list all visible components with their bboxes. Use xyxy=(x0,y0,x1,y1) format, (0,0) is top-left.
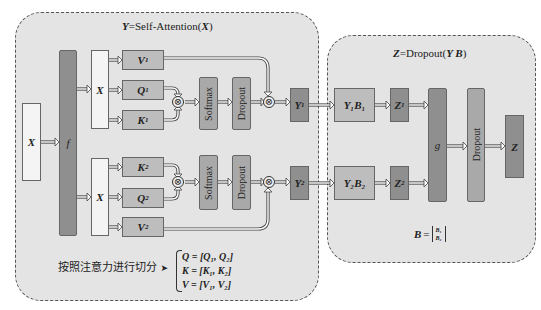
dropout1-label: Dropout xyxy=(236,87,247,120)
self-attention-title: Y=Self-Attention(X) xyxy=(122,20,213,32)
y2b2-label: Y₂B₂ xyxy=(344,177,366,189)
dropout1-box: Dropout xyxy=(232,77,251,130)
k2-sub: 2 xyxy=(145,163,149,171)
z-output-box: Z xyxy=(505,115,524,178)
z-output-label: Z xyxy=(511,141,518,153)
q1-box: Q1 xyxy=(122,80,164,100)
equation-k: K = [K₁, K₂] xyxy=(182,264,233,278)
y1-label: Y xyxy=(294,99,301,111)
matmul-v1-icon: ⊗ xyxy=(263,96,275,108)
y1b1-box: Y₁B₁ xyxy=(334,88,375,122)
softmax1-box: Softmax xyxy=(199,77,218,130)
dropout2-label: Dropout xyxy=(236,166,247,199)
matmul-qk2-icon: ⊗ xyxy=(172,176,184,188)
z2-sub: 2 xyxy=(401,179,405,187)
softmax1-label: Softmax xyxy=(203,87,214,121)
k1-box: K1 xyxy=(122,110,164,130)
f-function-bar: f xyxy=(59,50,77,236)
q2-box: Q2 xyxy=(122,188,164,208)
dropout-title: Z=Dropout(Y B) xyxy=(393,47,466,59)
title-arg-yb: Y B xyxy=(446,47,462,59)
title-var-y: Y xyxy=(122,20,129,32)
v2-label: V xyxy=(138,221,145,233)
equation-v: V = [V₁, V₂] xyxy=(182,278,233,292)
title-close: ) xyxy=(209,20,213,32)
title-eq: =Self-Attention( xyxy=(129,20,202,32)
dropout2-box: Dropout xyxy=(232,155,251,210)
final-dropout-label: Dropout xyxy=(471,128,482,161)
arrow-right-icon: ➤ xyxy=(161,263,169,273)
split-x-box-top: X xyxy=(91,50,109,129)
final-dropout-bar: Dropout xyxy=(467,88,485,202)
title-var-z: Z xyxy=(393,47,400,59)
y1-box: Y1 xyxy=(290,88,309,122)
title-eq-right: =Dropout( xyxy=(400,47,447,59)
y2b2-box: Y₂B₂ xyxy=(334,166,375,200)
z2-box: Z2 xyxy=(390,166,409,200)
softmax2-box: Softmax xyxy=(199,155,218,210)
v1-label: V xyxy=(138,54,145,66)
v1-box: V1 xyxy=(122,50,164,70)
input-x-box: X xyxy=(22,103,41,181)
v2-sub: 2 xyxy=(145,223,149,231)
k1-label: K xyxy=(138,114,145,126)
b-matrix-row-2: B₂ xyxy=(436,234,442,242)
z1-sub: 1 xyxy=(401,101,405,109)
title-close-right: ) xyxy=(463,47,467,59)
matmul-qk1-icon: ⊗ xyxy=(172,96,184,108)
y1b1-label: Y₁B₁ xyxy=(344,99,366,111)
b-matrix-bracket: B₁ B₂ xyxy=(432,226,446,242)
split-note: 按照注意力进行切分 ➤ xyxy=(58,258,168,274)
v2-box: V2 xyxy=(122,217,164,237)
g-function-bar: g xyxy=(428,88,447,202)
b-matrix-label: B xyxy=(414,228,421,240)
k1-sub: 1 xyxy=(145,116,149,124)
split-x-label-top: X xyxy=(96,84,103,96)
input-x-label: X xyxy=(28,136,35,148)
softmax2-label: Softmax xyxy=(203,166,214,200)
q2-sub: 2 xyxy=(145,194,149,202)
f-label: f xyxy=(66,137,69,149)
q1-sub: 1 xyxy=(145,86,149,94)
equation-q: Q = [Q₁, Q₂] xyxy=(182,250,233,264)
split-x-box-bottom: X xyxy=(91,158,109,236)
y2-box: Y2 xyxy=(290,166,309,200)
z1-box: Z1 xyxy=(390,88,409,122)
z1-label: Z xyxy=(394,99,401,111)
split-x-label-bottom: X xyxy=(96,191,103,203)
v1-sub: 1 xyxy=(145,56,149,64)
k2-box: K2 xyxy=(122,157,164,177)
y2-sub: 2 xyxy=(301,179,305,187)
b-matrix-eq: = xyxy=(423,228,429,240)
g-label: g xyxy=(435,139,441,151)
title-arg-x: X xyxy=(202,20,209,32)
b-matrix-row-1: B₁ xyxy=(436,226,442,234)
split-note-text: 按照注意力进行切分 xyxy=(58,261,157,274)
b-matrix: B = B₁ B₂ xyxy=(414,226,446,242)
split-equations: Q = [Q₁, Q₂] K = [K₁, K₂] V = [V₁, V₂] xyxy=(182,250,233,292)
k2-label: K xyxy=(138,161,145,173)
matmul-v2-icon: ⊗ xyxy=(263,176,275,188)
y1-sub: 1 xyxy=(301,101,305,109)
q1-label: Q xyxy=(137,84,145,96)
